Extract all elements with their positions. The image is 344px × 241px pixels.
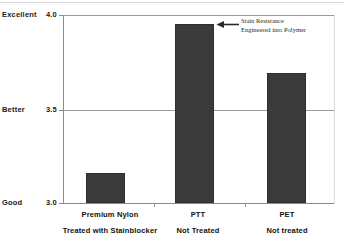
bar-ptt — [175, 24, 214, 203]
category-separator-2 — [245, 203, 246, 207]
y-axis-qualitative-excellent: Excellent — [2, 9, 37, 21]
annotation-stain-resistance: Stain Resistance Engineered into Polymer — [241, 17, 306, 34]
category-label-line1: PET — [231, 210, 343, 219]
y-axis-value-3-5: 3.5 — [46, 104, 57, 116]
bar-pet — [267, 73, 306, 203]
annotation-line2: Engineered into Polymer — [241, 26, 306, 35]
y-axis-label-better: Better 3.5 — [0, 104, 61, 116]
y-axis-label-excellent: Excellent 4.0 — [0, 9, 61, 21]
scan-top-rule — [0, 2, 344, 3]
annotation-arrow-icon — [216, 20, 240, 29]
annotation-line1: Stain Resistance — [241, 17, 306, 26]
stain-resistance-bar-chart: Excellent 4.0 Better 3.5 Good 3.0 Premiu… — [0, 0, 344, 241]
category-label-line2: Not treated — [231, 226, 343, 235]
axis-x-baseline — [63, 203, 335, 204]
y-axis-value-4-0: 4.0 — [46, 9, 57, 21]
bar-premium-nylon — [86, 173, 125, 203]
y-axis-value-3-0: 3.0 — [46, 197, 57, 209]
y-axis-label-good: Good 3.0 — [0, 197, 61, 209]
y-axis-qualitative-better: Better — [2, 104, 25, 116]
category-separator-1 — [154, 203, 155, 207]
plot-frame-right-edge — [334, 15, 335, 204]
category-label-pet: PET Not treated — [231, 210, 343, 235]
gridline-4-0 — [63, 15, 335, 16]
y-axis-qualitative-good: Good — [2, 197, 22, 209]
